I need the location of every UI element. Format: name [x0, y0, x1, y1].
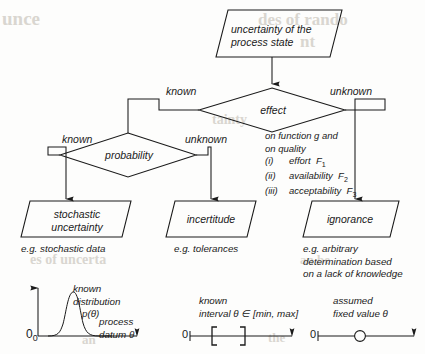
caption-incertitude: e.g. tolerances — [174, 243, 238, 256]
annotation-criteria-row: (iii) acceptability F3 — [265, 185, 359, 200]
caption-ignorance-line2: determination based — [303, 256, 403, 269]
connector-probability-known — [48, 147, 66, 199]
edge-label-probability-known: known — [62, 133, 92, 145]
caption-stochastic-uncertainty: e.g. stochastic data — [21, 243, 105, 256]
plot1-axis-label: process datum θ — [99, 316, 134, 341]
node-label-root-line2: process state — [231, 36, 341, 49]
criteria-numeral: (ii) — [265, 170, 289, 185]
criteria-text: effort F1 — [289, 155, 359, 170]
criteria-text: acceptability F3 — [289, 185, 359, 200]
node-label-incertitude: incertitude — [172, 213, 250, 226]
annotation-criteria-list: (i) effort F1 (ii) availability F2 (iii)… — [265, 155, 359, 200]
node-label-root: uncertainty of the process state — [231, 23, 341, 49]
plot1-axis-line2: datum θ — [99, 329, 134, 342]
plot2-label-line1: known — [199, 295, 298, 308]
annotation-function-quality: on function g and on quality (i) effort … — [265, 130, 359, 200]
plot3-origin-label: 0 — [310, 328, 316, 341]
criteria-symbol: F1 — [313, 155, 325, 166]
plot1-axis-line1: process — [99, 316, 134, 329]
criteria-text: availability F2 — [289, 170, 359, 185]
caption-ignorance-line3: on a lack of knowledge — [303, 268, 403, 281]
node-label-stochastic-line2: uncertainty — [33, 221, 121, 234]
plot1-origin-label: 00 — [26, 327, 38, 344]
caption-ignorance: e.g. arbitrary determination based on a … — [303, 243, 403, 281]
annotation-line2: on quality — [265, 143, 359, 156]
plot2-formula: interval θ ∈ [min, max] — [199, 308, 298, 321]
node-label-ignorance: ignorance — [308, 213, 392, 226]
plot1-label: known distribution p(θ) — [73, 283, 120, 321]
node-label-root-line1: uncertainty of the — [231, 23, 341, 36]
connector-effect-known — [128, 99, 199, 133]
criteria-symbol: F3 — [344, 185, 356, 196]
edge-label-effect-known: known — [166, 85, 196, 97]
criteria-symbol: F2 — [335, 170, 347, 181]
plot3-label-line1: assumed — [333, 295, 388, 308]
annotation-criteria-row: (ii) availability F2 — [265, 170, 359, 185]
edge-label-effect-unknown: unknown — [330, 85, 372, 97]
plot3-formula: fixed value θ — [333, 308, 388, 321]
plot3-point-marker — [355, 331, 366, 342]
annotation-line1: on function g and — [265, 130, 359, 143]
plot1-label-line2: distribution — [73, 296, 120, 309]
criteria-numeral: (i) — [265, 155, 289, 170]
connector-probability-unknown — [196, 147, 211, 199]
plot2-label: known interval θ ∈ [min, max] — [199, 295, 298, 320]
node-label-effect: effect — [247, 104, 299, 117]
diagram-canvas: unce des of rando nt tainty es of uncert… — [0, 0, 425, 354]
plot1-label-line1: known — [73, 283, 120, 296]
node-label-stochastic-line1: stochastic — [33, 208, 121, 221]
caption-ignorance-line1: e.g. arbitrary — [303, 243, 403, 256]
annotation-criteria-row: (i) effort F1 — [265, 155, 359, 170]
plot3-label: assumed fixed value θ — [333, 295, 388, 320]
plot2-origin-label: 0 — [182, 328, 188, 341]
node-label-probability: probability — [98, 149, 160, 162]
criteria-numeral: (iii) — [265, 185, 289, 200]
node-label-stochastic-uncertainty: stochastic uncertainty — [33, 208, 121, 234]
edge-label-probability-unknown: unknown — [185, 133, 227, 145]
